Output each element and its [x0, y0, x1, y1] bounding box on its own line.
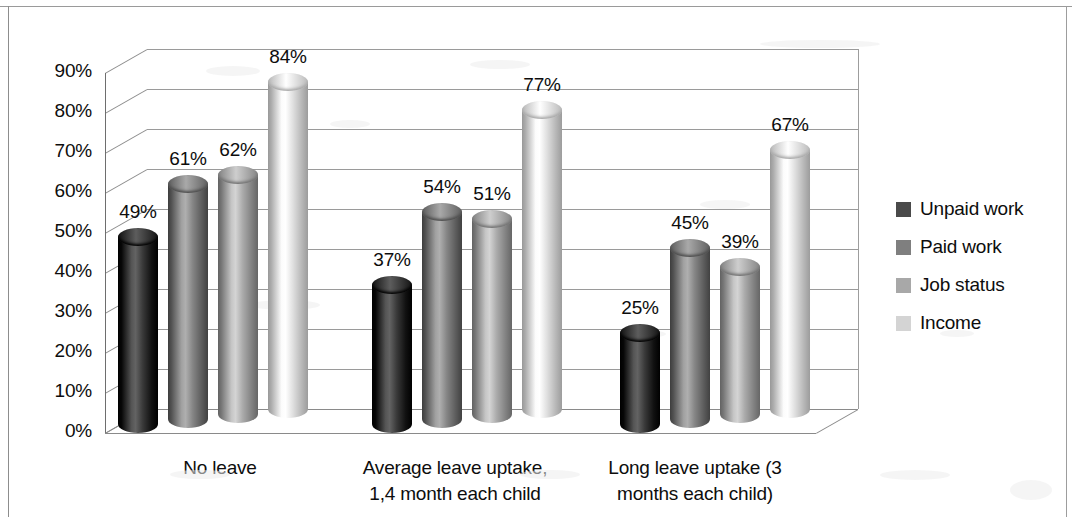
- gridline: [147, 129, 858, 130]
- category-label-line: Long leave uptake (3: [580, 455, 810, 481]
- gridline: [147, 49, 858, 50]
- bar-body: [522, 110, 562, 418]
- legend-swatch-icon: [896, 278, 911, 293]
- bar-top-ellipse: [372, 276, 412, 294]
- legend-label: Unpaid work: [920, 198, 1023, 220]
- legend-item-income[interactable]: Income: [896, 304, 1072, 342]
- legend-label: Paid work: [920, 236, 1002, 258]
- bar-job-status-group-1: [218, 175, 258, 423]
- bar-body: [218, 175, 258, 423]
- bar-job-status-group-2: [472, 219, 512, 423]
- floor-front-edge: [105, 433, 816, 434]
- bar-income-group-2: [522, 110, 562, 418]
- bar-top-ellipse: [620, 324, 660, 342]
- bar-unpaid-work-group-3: [620, 333, 660, 433]
- legend-label: Income: [920, 312, 981, 334]
- bar-body: [472, 219, 512, 423]
- bar-body: [620, 333, 660, 433]
- bar-top-ellipse: [118, 228, 158, 246]
- bar-body: [422, 212, 462, 428]
- gridline-depth-segment: [105, 89, 147, 114]
- bar-body: [670, 248, 710, 428]
- bar-paid-work-group-2: [422, 212, 462, 428]
- y-tick-label-90: 90%: [20, 60, 92, 82]
- chart-legend: Unpaid workPaid workJob statusIncome: [896, 190, 1072, 342]
- legend-swatch-icon: [896, 202, 911, 217]
- scan-speck: [880, 470, 950, 480]
- legend-swatch-icon: [896, 316, 911, 331]
- bar-income-group-1: [268, 82, 308, 418]
- bar-body: [372, 285, 412, 433]
- y-tick-label-40: 40%: [20, 260, 92, 282]
- y-tick-label-20: 20%: [20, 340, 92, 362]
- chart-container: 49%37%25%61%54%45%62%51%39%84%77%67% 90%…: [0, 0, 1072, 517]
- bar-top-ellipse: [168, 175, 208, 193]
- data-label-unpaid-work-group-3: 25%: [616, 297, 664, 319]
- plot-right-edge: [858, 49, 859, 409]
- bar-paid-work-group-3: [670, 248, 710, 428]
- data-label-paid-work-group-1: 61%: [164, 148, 212, 170]
- plot-area: 49%37%25%61%54%45%62%51%39%84%77%67%: [0, 0, 900, 470]
- bar-unpaid-work-group-1: [118, 237, 158, 433]
- y-tick-label-50: 50%: [20, 220, 92, 242]
- data-label-unpaid-work-group-1: 49%: [114, 201, 162, 223]
- scan-speck: [1010, 480, 1052, 500]
- bar-income-group-3: [770, 150, 810, 418]
- bar-body: [720, 267, 760, 423]
- y-axis-line: [105, 73, 106, 433]
- gridline-depth-segment: [105, 129, 147, 154]
- bar-top-ellipse: [770, 141, 810, 159]
- gridline-depth-segment: [105, 169, 147, 194]
- y-tick-label-80: 80%: [20, 100, 92, 122]
- y-tick-label-30: 30%: [20, 300, 92, 322]
- category-label-line: No leave: [120, 455, 320, 481]
- bar-paid-work-group-1: [168, 184, 208, 428]
- bar-top-ellipse: [670, 239, 710, 257]
- data-label-income-group-3: 67%: [766, 114, 814, 136]
- data-label-job-status-group-1: 62%: [214, 139, 262, 161]
- category-label-2: Average leave uptake,1,4 month each chil…: [330, 455, 580, 507]
- category-label-line: Average leave uptake,: [330, 455, 580, 481]
- bar-body: [770, 150, 810, 418]
- gridline-depth-segment: [105, 49, 147, 74]
- bar-top-ellipse: [422, 203, 462, 221]
- bar-body: [268, 82, 308, 418]
- bar-top-ellipse: [720, 258, 760, 276]
- category-label-1: No leave: [120, 455, 320, 481]
- data-label-job-status-group-3: 39%: [716, 231, 764, 253]
- y-tick-label-70: 70%: [20, 140, 92, 162]
- legend-swatch-icon: [896, 240, 911, 255]
- category-label-3: Long leave uptake (3months each child): [580, 455, 810, 507]
- gridline: [147, 89, 858, 90]
- data-label-income-group-2: 77%: [518, 74, 566, 96]
- data-label-paid-work-group-3: 45%: [666, 212, 714, 234]
- bar-job-status-group-3: [720, 267, 760, 423]
- bar-body: [168, 184, 208, 428]
- data-label-income-group-1: 84%: [264, 46, 312, 68]
- floor-right-edge: [816, 409, 858, 434]
- legend-item-unpaid-work[interactable]: Unpaid work: [896, 190, 1072, 228]
- category-label-line: 1,4 month each child: [330, 481, 580, 507]
- category-label-line: months each child): [580, 481, 810, 507]
- y-tick-label-10: 10%: [20, 380, 92, 402]
- data-label-unpaid-work-group-2: 37%: [368, 249, 416, 271]
- bar-top-ellipse: [472, 210, 512, 228]
- bar-unpaid-work-group-2: [372, 285, 412, 433]
- legend-item-paid-work[interactable]: Paid work: [896, 228, 1072, 266]
- bar-top-ellipse: [218, 166, 258, 184]
- y-tick-label-0: 0%: [20, 420, 92, 442]
- data-label-paid-work-group-2: 54%: [418, 176, 466, 198]
- legend-item-job-status[interactable]: Job status: [896, 266, 1072, 304]
- legend-label: Job status: [920, 274, 1005, 296]
- bar-top-ellipse: [268, 73, 308, 91]
- y-tick-label-60: 60%: [20, 180, 92, 202]
- bar-top-ellipse: [522, 101, 562, 119]
- data-label-job-status-group-2: 51%: [468, 183, 516, 205]
- bar-body: [118, 237, 158, 433]
